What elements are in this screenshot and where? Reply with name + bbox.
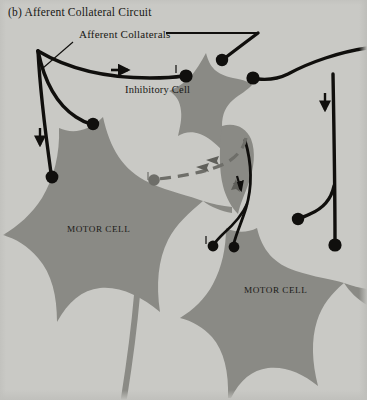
motor-cell-left-body: [3, 117, 203, 322]
afferent-collateral-terminal: [179, 69, 192, 82]
motor-cell-right-body: [180, 228, 344, 398]
inhibitory-axon-terminal-1: [229, 242, 240, 253]
motor-cell-label-left: MOTOR CELL: [67, 224, 130, 234]
motor-cell-left-axon: [124, 295, 137, 398]
inhibitory-axon-terminal-2: [208, 241, 219, 252]
afferent-fiber-left-terminal-2: [87, 118, 99, 130]
afferent-fiber-right-group: [246, 48, 367, 252]
afferent-collateral-top-terminal: [216, 54, 228, 66]
motor-cell-left-dendrite-stub: [203, 201, 232, 213]
afferent-fiber-left-terminal-1: [46, 171, 59, 184]
afferent-collateral-circuit-figure: (b) Afferent Collateral Circuit Afferent…: [0, 0, 367, 400]
afferent-fiber-far-right-terminal: [328, 238, 341, 251]
afferent-fiber-far-right-trunk: [333, 74, 335, 240]
afferent-fiber-far-right-branch: [301, 186, 334, 218]
afferent-collateral-top-right-group: [166, 33, 258, 66]
cell-bodies-group: [3, 53, 367, 398]
afferent-fiber-right-terminal-1: [246, 71, 259, 84]
afferent-collateral-to-inhibitory: [38, 51, 183, 78]
afferent-collateral-top-fiber: [225, 33, 258, 58]
motor-cell-label-right: MOTOR CELL: [244, 285, 307, 295]
afferent-fiber-far-right-branch-terminal: [292, 213, 304, 225]
motor-cell-right-dendrite: [344, 283, 367, 305]
afferent-fiber-right-to-inhibitory: [258, 48, 367, 79]
circuit-diagram-canvas: [0, 0, 367, 400]
inhibitory-cell-label: Inhibitory Cell: [125, 84, 195, 96]
recurrent-inhibition-terminal: [148, 174, 160, 186]
afferent-collaterals-label: Afferent Collaterals: [79, 28, 170, 40]
figure-title: (b) Afferent Collateral Circuit: [8, 6, 152, 18]
